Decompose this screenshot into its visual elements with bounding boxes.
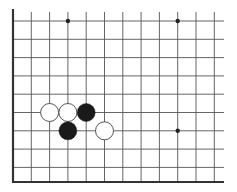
star-point-icon — [176, 19, 180, 23]
star-point-icon — [66, 19, 70, 23]
star-point-icon — [176, 129, 180, 133]
go-board-canvas[interactable] — [0, 0, 237, 192]
white-stone[interactable] — [59, 104, 77, 122]
black-stone[interactable] — [59, 122, 77, 140]
go-board[interactable] — [0, 0, 237, 192]
white-stone[interactable] — [96, 122, 114, 140]
white-stone[interactable] — [41, 104, 59, 122]
grid-lines — [13, 12, 224, 182]
black-stone[interactable] — [77, 104, 95, 122]
stones — [41, 104, 114, 140]
board-edges — [12, 9, 224, 183]
